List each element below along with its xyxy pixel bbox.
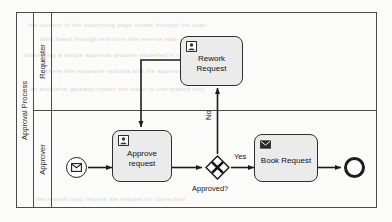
task-book-request[interactable]: Book Request (254, 134, 318, 182)
task-book-request-label: Book Request (261, 150, 311, 166)
exclusive-gateway-approved[interactable] (205, 155, 230, 180)
task-approve-request[interactable]: Approve request (112, 130, 172, 182)
envelope-icon (71, 163, 82, 172)
user-icon (118, 135, 129, 146)
lane-requester: Requester (34, 12, 52, 110)
pool-label-text: Approval Process (20, 81, 29, 140)
end-event[interactable] (344, 157, 365, 178)
flow-label-yes: Yes (234, 152, 246, 161)
x-icon (205, 155, 230, 180)
pool-label: Approval Process (16, 12, 34, 208)
task-rework-request-label: Rework Request (197, 48, 227, 73)
bpmn-diagram-canvas: the content of the underlying page shows… (0, 0, 392, 222)
lane-approver: Approver (34, 110, 52, 208)
task-rework-request[interactable]: Rework Request (180, 36, 243, 86)
lane-requester-label: Requester (38, 44, 47, 79)
flow-label-no: No (204, 110, 213, 120)
gateway-label-approved: Approved? (192, 184, 228, 193)
envelope-icon (260, 139, 271, 150)
lane-approver-label: Approver (38, 144, 47, 174)
user-icon (186, 41, 197, 52)
message-start-event[interactable] (66, 157, 87, 178)
task-approve-request-label: Approve request (127, 143, 157, 168)
